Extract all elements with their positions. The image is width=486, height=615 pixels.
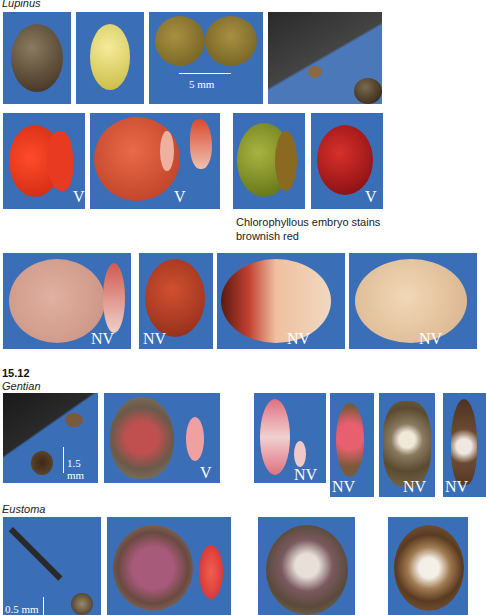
nonviable-label: NV	[91, 331, 114, 347]
scale-bar	[179, 73, 231, 74]
seed-half-right	[205, 16, 257, 66]
lupinus-peeled-seed-panel	[76, 12, 144, 104]
whole-seed	[354, 78, 382, 104]
eustoma-unstained-panel-1	[258, 517, 355, 615]
lupinus-nonviable-panel-1: NV	[3, 253, 131, 349]
lupinus-nonviable-panel-2: NV	[139, 253, 213, 349]
viable-label: V	[200, 465, 212, 481]
pale-axis	[103, 263, 125, 333]
nonviable-label: NV	[143, 331, 166, 347]
white-embryo-section	[266, 525, 348, 615]
gentian-nonviable-panel-4: NV	[443, 393, 486, 497]
gentian-nonviable-panel-1: NV	[254, 393, 326, 483]
viable-label: V	[73, 189, 85, 205]
lupinus-nonviable-panel-3: NV	[217, 253, 345, 349]
stained-seed	[336, 403, 364, 477]
lupinus-title: Lupinus	[2, 0, 41, 9]
white-embryo-seed	[383, 401, 431, 487]
unstained-seed	[355, 259, 467, 343]
partially-stained-seed	[260, 399, 290, 475]
eustoma-cutting-panel: 0.5 mm	[3, 517, 101, 615]
scale-label: 5 mm	[189, 78, 214, 90]
gentian-title: Gentian	[2, 380, 41, 392]
lupinus-viable-panel-3: V	[311, 113, 383, 209]
seed-half-left	[155, 16, 205, 66]
scale-label: 0.5 mm	[5, 603, 39, 615]
eustoma-stained-panel	[107, 517, 231, 615]
white-embryo-section	[394, 525, 464, 611]
viable-label: V	[174, 189, 186, 205]
lupinus-cutting-panel	[268, 12, 382, 104]
nonviable-label: NV	[445, 479, 468, 495]
embryo-axis	[160, 131, 174, 171]
nonviable-label: NV	[332, 479, 355, 495]
caption-line-2: brownish red	[236, 229, 380, 243]
eustoma-unstained-panel-2	[388, 517, 468, 615]
caption-line-1: Chlorophyllous embryo stains	[236, 215, 380, 229]
stained-axis	[47, 131, 73, 191]
nonviable-label: NV	[294, 467, 317, 483]
scale-bar	[63, 447, 64, 473]
needle	[9, 527, 63, 581]
mottled-seed	[11, 24, 63, 92]
nonviable-label: NV	[403, 479, 426, 495]
figure-number: 15.12	[2, 367, 30, 379]
gentian-nonviable-panel-2: NV	[330, 393, 374, 497]
nonviable-label: NV	[419, 331, 442, 347]
red-embryo	[199, 545, 223, 599]
stained-seed-section	[113, 525, 193, 611]
scale-label: 1.5 mm	[67, 457, 98, 481]
dark-red-seed	[317, 125, 373, 195]
gentian-viable-panel: V	[104, 393, 220, 483]
brownish-axis	[275, 131, 297, 191]
viable-label: V	[365, 189, 377, 205]
lupinus-viable-panel-2: V	[90, 113, 220, 209]
embryo	[294, 441, 306, 467]
gradient-stained-seed	[221, 259, 331, 343]
lupinus-nonviable-panel-4: NV	[349, 253, 477, 349]
nonviable-label: NV	[287, 331, 310, 347]
cut-seed-stained	[110, 397, 174, 479]
gentian-nonviable-panel-3: NV	[379, 393, 435, 497]
separated-axis	[190, 119, 212, 169]
lupinus-chlorophyllous-panel	[233, 113, 305, 209]
scale-bar	[43, 597, 44, 615]
gentian-cutting-panel: 1.5 mm	[3, 393, 98, 483]
seed-fragment	[65, 413, 83, 427]
embryo	[186, 417, 204, 461]
eustoma-title: Eustoma	[2, 503, 45, 515]
lupinus-cut-seed-panel: 5 mm	[149, 12, 263, 104]
lupinus-viable-panel-1: V	[3, 113, 85, 209]
seed-fragment	[308, 66, 322, 78]
whole-seed	[31, 451, 53, 475]
yellow-seed	[90, 24, 130, 90]
chlorophyll-caption: Chlorophyllous embryo stains brownish re…	[236, 215, 380, 243]
seed	[71, 593, 93, 615]
lupinus-whole-seed-panel	[3, 12, 71, 104]
partly-stained-seed	[145, 259, 205, 337]
dark-seed	[451, 399, 477, 485]
